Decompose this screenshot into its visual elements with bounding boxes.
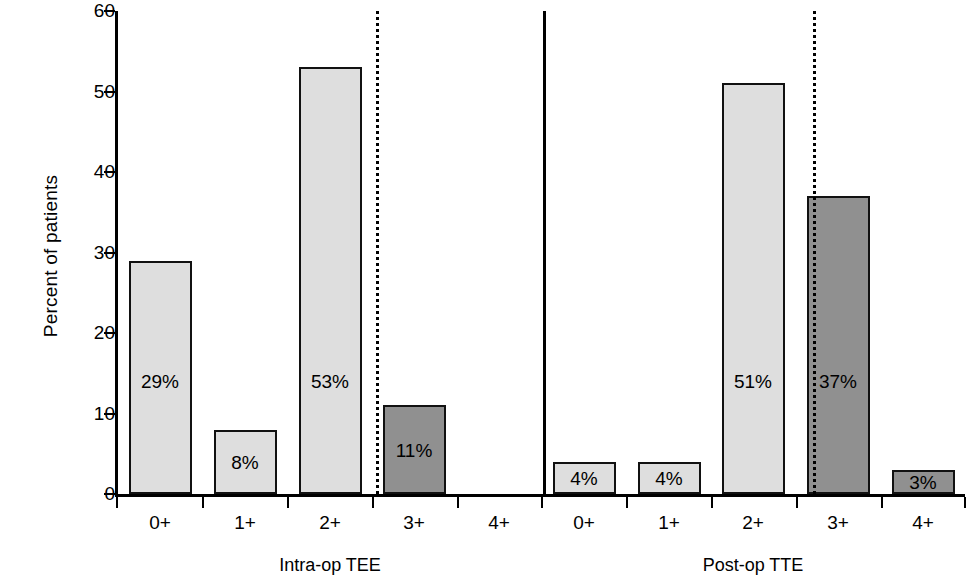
x-axis-tick (541, 497, 543, 508)
x-axis-tick (964, 497, 966, 508)
bar-value-label: 8% (216, 452, 275, 474)
x-axis-tick (116, 497, 118, 508)
bar-value-label: 4% (555, 468, 614, 490)
x-axis-tick-label: 1+ (215, 512, 275, 534)
x-axis-tick (796, 497, 798, 508)
bar-value-label: 29% (131, 371, 190, 393)
bar-value-label: 53% (301, 371, 360, 393)
x-axis-tick (287, 497, 289, 508)
y-axis-tick-label: 20 (69, 323, 115, 342)
x-axis-tick (711, 497, 713, 508)
x-axis-tick-label: 4+ (469, 512, 529, 534)
x-axis-tick-label: 1+ (639, 512, 699, 534)
bar: 29% (129, 261, 192, 494)
bar: 11% (383, 405, 446, 494)
bar: 8% (214, 430, 277, 494)
y-axis-tick-label: 0 (69, 484, 115, 503)
y-axis-tick-label: 60 (69, 1, 115, 20)
x-axis-tick-label: 0+ (130, 512, 190, 534)
x-axis-line (115, 494, 965, 497)
dotted-vertical-divider (376, 11, 379, 494)
x-axis-tick-label: 4+ (893, 512, 953, 534)
bar-value-label: 51% (724, 371, 783, 393)
x-axis-tick-label: 0+ (554, 512, 614, 534)
bar-value-label: 37% (809, 371, 868, 393)
x-axis-tick-label: 3+ (808, 512, 868, 534)
group-label: Post-op TTE (613, 555, 893, 576)
dotted-vertical-divider (813, 11, 816, 494)
bar: 51% (722, 83, 785, 494)
x-axis-tick-label: 2+ (723, 512, 783, 534)
x-axis-tick (202, 497, 204, 508)
x-axis-tick-label: 2+ (300, 512, 360, 534)
bar-value-label: 11% (385, 440, 444, 462)
y-axis-tick-label: 50 (69, 82, 115, 101)
y-axis-line (115, 11, 118, 496)
bar: 4% (553, 462, 616, 494)
x-axis-tick (626, 497, 628, 508)
y-axis-tick-label: 40 (69, 162, 115, 181)
x-axis-tick (457, 497, 459, 508)
y-axis-tick-label: 30 (69, 243, 115, 262)
x-axis-tick (881, 497, 883, 508)
group-label: Intra-op TEE (190, 555, 470, 576)
bar-value-label: 3% (894, 472, 953, 494)
solid-vertical-divider (543, 11, 546, 494)
y-axis-title: Percent of patients (40, 106, 62, 406)
x-axis-tick-label: 3+ (384, 512, 444, 534)
bar: 3% (892, 470, 955, 494)
bar-value-label: 4% (640, 468, 699, 490)
bar: 53% (299, 67, 362, 494)
bar: 4% (638, 462, 701, 494)
bar-chart: Percent of patients 0102030405060 29%8%5… (0, 0, 980, 588)
x-axis-tick (372, 497, 374, 508)
y-axis-tick-label: 10 (69, 404, 115, 423)
